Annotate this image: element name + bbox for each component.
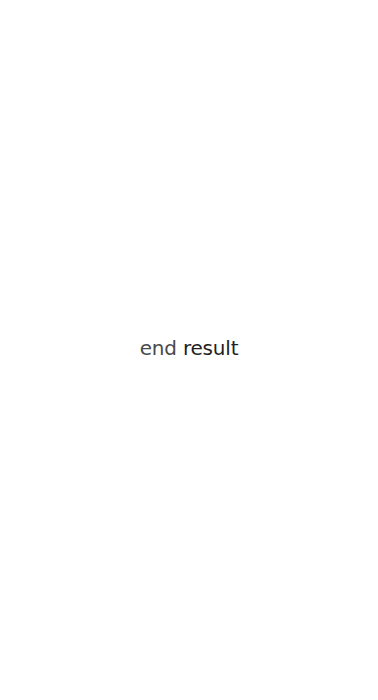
- caption-word-end: end: [140, 336, 177, 360]
- page-canvas: end result: [0, 0, 378, 700]
- caption-word-result: result: [183, 336, 238, 360]
- caption-text: end result: [0, 334, 378, 362]
